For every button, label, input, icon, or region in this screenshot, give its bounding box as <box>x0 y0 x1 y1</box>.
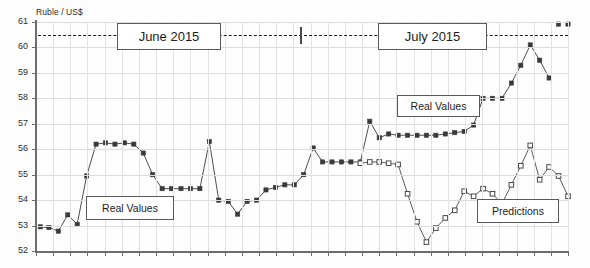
x-axis-tick-mark <box>517 251 518 256</box>
gridline-vertical <box>259 22 260 251</box>
gridline-horizontal <box>36 98 568 99</box>
x-axis-tick-mark <box>36 251 37 256</box>
y-axis-tick-mark <box>32 98 37 99</box>
gridline-horizontal <box>36 73 568 74</box>
y-axis-tick-mark <box>32 200 37 201</box>
x-axis-tick-mark <box>362 251 363 256</box>
data-point-marker <box>349 160 353 164</box>
y-axis-tick-label: 61 <box>6 16 28 26</box>
data-point-marker <box>538 58 542 62</box>
data-point-marker <box>453 131 457 135</box>
annotation-july-2015: July 2015 <box>378 23 487 50</box>
data-point-marker <box>236 212 240 216</box>
x-axis-tick-mark <box>139 251 140 256</box>
gridline-vertical <box>396 22 397 251</box>
data-point-marker <box>471 194 476 199</box>
annotation-real-values-right: Real Values <box>397 95 480 117</box>
x-axis-tick-mark <box>122 251 123 256</box>
gridline-vertical <box>328 22 329 251</box>
data-point-marker <box>330 160 334 164</box>
gridline-vertical <box>345 22 346 251</box>
data-point-marker <box>452 208 457 213</box>
y-axis-tick-mark <box>32 149 37 150</box>
y-axis-tick-mark <box>32 175 37 176</box>
gridline-vertical <box>362 22 363 251</box>
gridline-vertical <box>379 22 380 251</box>
x-axis-tick-mark <box>311 251 312 256</box>
data-point-marker <box>320 160 324 164</box>
gridline-vertical <box>568 22 569 251</box>
y-axis-unit-caption: Ruble / US$ <box>36 7 83 17</box>
x-axis-tick-mark <box>225 251 226 256</box>
y-axis-tick-mark <box>32 124 37 125</box>
gridline-vertical <box>448 22 449 251</box>
x-axis-tick-mark <box>276 251 277 256</box>
data-point-marker <box>141 151 145 155</box>
data-point-marker <box>94 142 98 146</box>
gridline-horizontal <box>36 149 568 150</box>
data-point-marker <box>160 187 164 191</box>
x-axis-tick-mark <box>396 251 397 256</box>
annotation-predictions: Predictions <box>477 199 559 223</box>
x-axis-tick-mark <box>448 251 449 256</box>
x-axis-tick-mark <box>190 251 191 256</box>
y-axis-tick-label: 57 <box>6 118 28 128</box>
data-point-marker <box>113 142 117 146</box>
data-point-marker <box>519 63 523 67</box>
y-axis-tick-label: 52 <box>6 245 28 255</box>
y-axis-tick-label: 55 <box>6 169 28 179</box>
y-axis-tick-label: 56 <box>6 143 28 153</box>
data-point-marker <box>66 213 70 217</box>
gridline-vertical <box>465 22 466 251</box>
data-point-marker <box>528 143 533 148</box>
data-point-marker <box>424 240 429 245</box>
month-divider-tick <box>300 27 302 44</box>
gridline-vertical <box>276 22 277 251</box>
data-point-marker <box>537 177 542 182</box>
gridline-vertical <box>70 22 71 251</box>
x-axis-tick-mark <box>53 251 54 256</box>
x-axis-tick-mark <box>568 251 569 256</box>
gridline-vertical <box>53 22 54 251</box>
x-axis-tick-mark <box>465 251 466 256</box>
x-axis-tick-mark <box>173 251 174 256</box>
data-point-marker <box>283 183 287 187</box>
data-point-marker <box>368 119 372 123</box>
y-axis-tick-mark <box>32 47 37 48</box>
data-point-marker <box>443 132 447 136</box>
y-axis-tick-mark <box>32 22 37 23</box>
x-axis-tick-mark <box>70 251 71 256</box>
x-axis-tick-mark <box>242 251 243 256</box>
x-axis-tick-mark <box>156 251 157 256</box>
y-axis-tick-mark <box>32 73 37 74</box>
gridline-vertical <box>311 22 312 251</box>
gridline-vertical <box>431 22 432 251</box>
data-point-marker <box>264 188 268 192</box>
x-axis-tick-mark <box>482 251 483 256</box>
data-point-marker <box>339 160 343 164</box>
data-point-marker <box>179 187 183 191</box>
y-axis-tick-label: 53 <box>6 220 28 230</box>
data-point-marker <box>132 142 136 146</box>
data-point-marker <box>405 133 409 137</box>
y-axis-tick-label: 54 <box>6 194 28 204</box>
gridline-vertical <box>293 22 294 251</box>
data-point-marker <box>528 43 532 47</box>
x-axis-line <box>35 251 569 253</box>
x-axis-tick-mark <box>379 251 380 256</box>
y-axis-tick-label: 59 <box>6 67 28 77</box>
gridline-horizontal <box>36 47 568 48</box>
gridline-horizontal <box>36 175 568 176</box>
data-point-marker <box>367 160 372 165</box>
data-point-marker <box>405 191 410 196</box>
y-axis-tick-label: 60 <box>6 41 28 51</box>
data-point-marker <box>56 229 60 233</box>
gridline-vertical <box>225 22 226 251</box>
data-point-marker <box>509 183 514 188</box>
x-axis-tick-mark <box>293 251 294 256</box>
x-axis-tick-mark <box>208 251 209 256</box>
x-axis-tick-mark <box>105 251 106 256</box>
data-point-marker <box>434 133 438 137</box>
gridline-vertical <box>242 22 243 251</box>
x-axis-tick-mark <box>345 251 346 256</box>
